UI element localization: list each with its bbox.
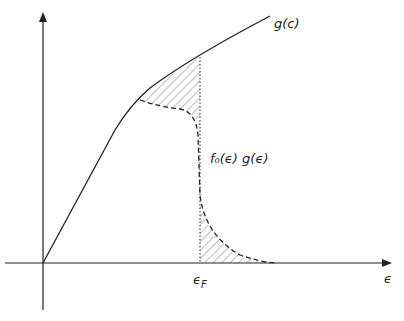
- fermi-label: ϵF: [193, 272, 207, 290]
- curve-label: g(c): [274, 16, 300, 31]
- fermi-subscript: F: [201, 279, 207, 290]
- x-axis-label: ϵ: [384, 271, 392, 286]
- hatched-region-upper: [140, 57, 200, 130]
- dos-curve: [43, 16, 270, 263]
- product-label: f₀(ϵ) g(ϵ): [210, 151, 268, 166]
- fermi-symbol: ϵ: [193, 272, 201, 287]
- hatched-region-lower: [200, 200, 275, 263]
- dos-diagram: g(c) f₀(ϵ) g(ϵ) ϵF ϵ: [0, 0, 404, 321]
